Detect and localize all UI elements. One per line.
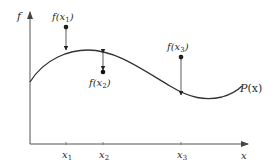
polynomial-interpolation-diagram: f x x1 x2 x3 P(x) f(x1) — [0, 0, 271, 167]
data-point-3: f(x3) — [166, 41, 189, 95]
tick-label-x1: x1 — [62, 149, 72, 162]
y-axis-label: f — [16, 10, 23, 23]
tick-label-x3: x3 — [177, 149, 187, 162]
point-dot-3 — [179, 55, 184, 60]
point-label-2: f(x2) — [88, 77, 111, 90]
x-axis-label: x — [241, 150, 247, 161]
point-dot-2 — [101, 70, 106, 75]
point-label-3: f(x3) — [166, 41, 189, 54]
data-point-1: f(x1) — [51, 11, 74, 50]
polynomial-curve — [30, 50, 242, 99]
curve-label: P(x) — [239, 82, 262, 95]
data-point-2: f(x2) — [88, 53, 111, 90]
point-dot-1 — [64, 25, 69, 30]
point-label-1: f(x1) — [51, 11, 74, 24]
tick-label-x2: x2 — [99, 149, 109, 162]
